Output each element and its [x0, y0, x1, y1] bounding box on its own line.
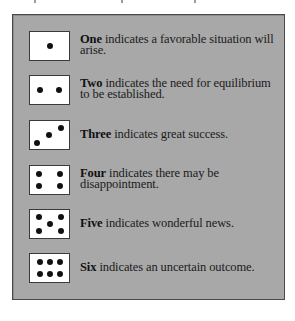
pip: [57, 271, 63, 277]
dice-row-six: Six indicates an uncertain outcome.: [13, 253, 284, 283]
dice-description-four: Four indicates there may be disappointme…: [80, 168, 276, 190]
pip: [58, 228, 64, 234]
pip: [58, 214, 64, 220]
dice-row-one: One indicates a favorable situation will…: [13, 31, 284, 61]
description-text: indicates wonderful news.: [103, 216, 234, 230]
dice-row-four: Four indicates there may be disappointme…: [13, 165, 284, 195]
pip: [36, 183, 42, 189]
pip: [47, 271, 53, 277]
die-face-one-icon: [29, 31, 70, 61]
dice-meaning-panel: One indicates a favorable situation will…: [12, 14, 285, 300]
die-face-six-icon: [29, 253, 70, 283]
pip: [47, 43, 53, 49]
dice-row-two: Two indicates the need for equilibrium t…: [13, 75, 284, 105]
pip: [34, 140, 40, 146]
description-text: indicates great success.: [111, 127, 228, 141]
pip: [36, 171, 42, 177]
pip: [47, 259, 53, 265]
dice-description-one: One indicates a favorable situation will…: [80, 34, 276, 56]
pip: [37, 87, 43, 93]
pip: [37, 271, 43, 277]
dice-row-three: Three indicates great success.: [13, 120, 284, 150]
text-fragment: [34, 0, 36, 3]
dice-description-five: Five indicates wonderful news.: [80, 218, 276, 229]
pip: [36, 228, 42, 234]
pip: [37, 259, 43, 265]
pip: [47, 221, 53, 227]
description-text: indicates the need for equilibrium to be…: [80, 76, 271, 101]
dice-description-six: Six indicates an uncertain outcome.: [80, 262, 276, 273]
cropped-text-line-fragment: [0, 0, 295, 6]
dice-row-five: Five indicates wonderful news.: [13, 209, 284, 239]
number-word: Three: [80, 127, 111, 141]
description-text: indicates a favorable situation will ari…: [80, 32, 274, 57]
number-word: Six: [80, 260, 96, 274]
text-fragment: [121, 0, 123, 3]
pip: [36, 214, 42, 220]
die-face-two-icon: [29, 75, 70, 105]
description-text: indicates an uncertain outcome.: [96, 260, 254, 274]
die-face-three-icon: [29, 120, 70, 150]
pip: [57, 183, 63, 189]
pip: [58, 125, 64, 131]
pip: [56, 87, 62, 93]
text-fragment: [194, 0, 196, 3]
dice-description-three: Three indicates great success.: [80, 129, 276, 140]
dice-description-two: Two indicates the need for equilibrium t…: [80, 78, 276, 100]
die-face-five-icon: [29, 209, 70, 239]
pip: [57, 259, 63, 265]
pip: [57, 171, 63, 177]
number-word: Five: [80, 216, 103, 230]
die-face-four-icon: [29, 165, 70, 195]
pip: [46, 132, 52, 138]
